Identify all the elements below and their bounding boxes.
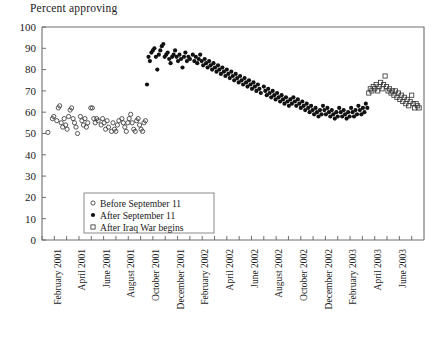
data-point bbox=[71, 117, 75, 121]
data-point bbox=[337, 106, 341, 110]
data-point bbox=[61, 125, 65, 129]
data-point bbox=[59, 121, 63, 125]
data-point bbox=[271, 89, 275, 93]
data-point bbox=[198, 53, 202, 57]
data-point bbox=[342, 108, 346, 112]
data-point bbox=[161, 42, 165, 46]
legend-label: Before September 11 bbox=[100, 198, 181, 209]
x-axis-labels: February 2001April 2001June 2001August 2… bbox=[53, 249, 408, 310]
data-point bbox=[203, 57, 207, 61]
x-tick-label: June 2003 bbox=[398, 249, 408, 288]
data-point bbox=[105, 119, 109, 123]
data-point bbox=[314, 106, 318, 110]
x-tick-label: October 2002 bbox=[299, 249, 309, 301]
data-point bbox=[173, 48, 177, 52]
data-point bbox=[177, 53, 181, 57]
y-tick-label: 70 bbox=[25, 85, 37, 97]
series-2 bbox=[145, 42, 370, 121]
data-point bbox=[229, 70, 233, 74]
data-point bbox=[65, 127, 69, 131]
data-point bbox=[349, 106, 353, 110]
data-point bbox=[330, 108, 334, 112]
data-point bbox=[211, 61, 215, 65]
data-point bbox=[300, 99, 304, 103]
data-point bbox=[321, 104, 325, 108]
data-point bbox=[101, 117, 105, 121]
legend-label: After Iraq War begins bbox=[100, 222, 184, 233]
data-point bbox=[220, 65, 224, 69]
data-point bbox=[296, 97, 300, 101]
data-point bbox=[259, 91, 263, 95]
data-point bbox=[234, 72, 238, 76]
data-point bbox=[364, 102, 368, 106]
x-tick-label: February 2001 bbox=[53, 249, 63, 305]
data-point bbox=[266, 87, 270, 91]
data-point bbox=[104, 127, 108, 131]
data-point bbox=[361, 106, 365, 110]
data-point bbox=[81, 123, 85, 127]
data-point bbox=[336, 114, 340, 118]
data-point bbox=[243, 76, 247, 80]
x-tick-label: August 2002 bbox=[274, 249, 284, 298]
data-point bbox=[182, 55, 186, 59]
series-3 bbox=[367, 74, 422, 110]
data-point bbox=[93, 121, 97, 125]
legend-label: After September 11 bbox=[100, 210, 176, 221]
data-point bbox=[62, 117, 66, 121]
data-point bbox=[262, 85, 266, 89]
y-tick-label: 20 bbox=[25, 191, 37, 203]
data-point bbox=[130, 121, 134, 125]
data-point bbox=[155, 68, 159, 72]
data-point bbox=[72, 121, 76, 125]
x-axis-ticks bbox=[42, 236, 412, 240]
data-point bbox=[280, 93, 284, 97]
x-tick-label: October 2001 bbox=[151, 249, 161, 301]
x-tick-label: February 2002 bbox=[200, 249, 210, 305]
series-1 bbox=[46, 104, 148, 136]
x-tick-label: June 2001 bbox=[102, 249, 112, 288]
data-point bbox=[46, 130, 50, 134]
x-tick-label: April 2003 bbox=[373, 249, 383, 291]
data-point bbox=[84, 125, 88, 129]
data-point bbox=[309, 104, 313, 108]
data-point bbox=[251, 80, 255, 84]
data-point bbox=[216, 63, 220, 67]
data-point bbox=[124, 129, 128, 133]
data-point bbox=[356, 104, 360, 108]
data-point bbox=[180, 65, 184, 69]
data-point bbox=[86, 121, 90, 125]
data-point bbox=[225, 68, 229, 72]
data-point bbox=[247, 78, 251, 82]
data-point bbox=[275, 91, 279, 95]
chart-figure: Percent approving 0102030405060708090100… bbox=[0, 0, 438, 339]
data-point bbox=[80, 119, 84, 123]
data-point bbox=[355, 112, 359, 116]
data-point bbox=[55, 119, 59, 123]
data-point bbox=[158, 48, 162, 52]
data-series-layer bbox=[46, 42, 421, 136]
data-point bbox=[284, 95, 288, 99]
x-tick-label: February 2003 bbox=[348, 249, 358, 305]
data-point bbox=[183, 51, 187, 55]
x-tick-label: June 2002 bbox=[250, 249, 260, 288]
data-point bbox=[238, 74, 242, 78]
data-point bbox=[74, 125, 78, 129]
data-point bbox=[169, 61, 173, 65]
data-point bbox=[291, 95, 295, 99]
data-point bbox=[319, 112, 323, 116]
data-point bbox=[152, 46, 156, 50]
y-tick-label: 60 bbox=[25, 106, 37, 118]
data-point bbox=[257, 87, 261, 91]
data-point bbox=[348, 114, 352, 118]
chart-legend: Before September 11After September 11Aft… bbox=[84, 193, 214, 233]
x-tick-label: April 2001 bbox=[77, 249, 87, 291]
data-point bbox=[318, 108, 322, 112]
data-point bbox=[346, 110, 350, 114]
data-point bbox=[305, 102, 309, 106]
y-tick-label: 80 bbox=[25, 63, 37, 75]
data-point bbox=[334, 110, 338, 114]
data-point bbox=[127, 117, 131, 121]
data-point bbox=[188, 57, 192, 61]
data-point bbox=[126, 121, 130, 125]
data-point bbox=[106, 125, 110, 129]
